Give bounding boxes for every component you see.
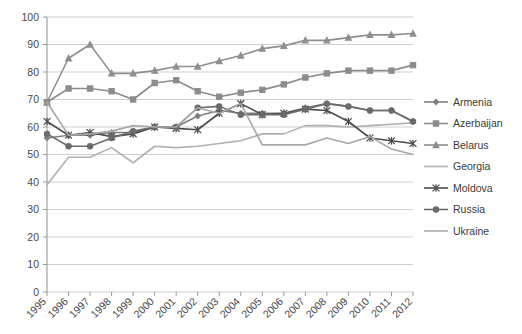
marker-triangle [324, 37, 330, 43]
marker-square [410, 63, 415, 68]
y-tick-label: 80 [27, 66, 39, 78]
marker-square [195, 89, 200, 94]
marker-triangle [216, 58, 222, 64]
marker-triangle [433, 142, 439, 148]
marker-circle [433, 207, 438, 212]
series-azerbaijan [44, 63, 415, 105]
x-tick-label: 2005 [239, 295, 264, 320]
legend-item-russia[interactable]: Russia [424, 203, 485, 215]
x-axis-ticks [47, 292, 413, 296]
legend-item-moldova[interactable]: Moldova [424, 182, 493, 194]
marker-triangle [87, 42, 93, 48]
marker-circle [260, 112, 265, 117]
legend-label: Belarus [453, 139, 489, 151]
x-tick-label: 2004 [217, 295, 242, 320]
marker-circle [131, 129, 136, 134]
marker-square [109, 89, 114, 94]
marker-triangle [195, 64, 201, 70]
marker-square [324, 71, 329, 76]
y-tick-label: 20 [27, 231, 39, 243]
marker-square [217, 94, 222, 99]
y-tick-label: 10 [27, 258, 39, 270]
legend-label: Azerbaijan [453, 117, 503, 129]
x-axis-tick-labels: 1995199619971998199920002001200220032004… [23, 295, 414, 320]
marker-triangle [238, 53, 244, 59]
marker-circle [44, 131, 49, 136]
marker-triangle [346, 35, 352, 41]
y-tick-label: 100 [21, 11, 39, 23]
legend-label: Moldova [453, 182, 493, 194]
y-tick-label: 30 [27, 203, 39, 215]
y-axis-ticks [43, 17, 47, 292]
marker-triangle [410, 31, 416, 37]
legend-label: Russia [453, 203, 485, 215]
data-series-layer [44, 31, 417, 185]
x-tick-label: 1995 [23, 295, 48, 320]
marker-square [66, 86, 71, 91]
marker-circle [389, 108, 394, 113]
x-tick-label: 2000 [131, 295, 156, 320]
series-line [47, 65, 413, 102]
marker-square [238, 90, 243, 95]
x-tick-label: 1996 [45, 295, 70, 320]
marker-triangle [173, 64, 179, 70]
legend-item-georgia[interactable]: Georgia [424, 160, 491, 172]
marker-triangle [259, 46, 265, 52]
series-line [47, 104, 413, 144]
x-tick-label: 2011 [368, 295, 393, 320]
y-axis-tick-labels: 0102030405060708090100 [21, 11, 39, 298]
marker-triangle [389, 32, 395, 38]
marker-square [303, 75, 308, 80]
marker-square [174, 78, 179, 83]
y-tick-label: 70 [27, 93, 39, 105]
marker-circle [410, 119, 415, 124]
series-belarus [44, 31, 416, 105]
chart-legend: ArmeniaAzerbaijanBelarusGeorgiaMoldovaRu… [424, 96, 503, 237]
x-tick-label: 2008 [303, 295, 328, 320]
marker-square [131, 97, 136, 102]
legend-item-armenia[interactable]: Armenia [424, 96, 492, 108]
x-tick-label: 2010 [346, 295, 371, 320]
legend-item-ukraine[interactable]: Ukraine [424, 225, 489, 237]
x-tick-label: 1998 [88, 295, 113, 320]
x-tick-label: 2001 [153, 295, 178, 320]
marker-diamond [433, 99, 438, 104]
x-tick-label: 2007 [282, 295, 307, 320]
marker-circle [87, 144, 92, 149]
y-tick-label: 90 [27, 38, 39, 50]
marker-square [152, 80, 157, 85]
y-tick-label: 40 [27, 176, 39, 188]
marker-circle [324, 101, 329, 106]
x-tick-label: 2012 [389, 295, 414, 320]
marker-triangle [152, 68, 158, 74]
marker-triangle [130, 70, 136, 76]
line-chart: 0102030405060708090100 19951996199719981… [0, 0, 522, 334]
legend-item-azerbaijan[interactable]: Azerbaijan [424, 117, 503, 129]
marker-circle [303, 107, 308, 112]
chart-canvas: 0102030405060708090100 19951996199719981… [0, 0, 522, 334]
marker-star [345, 118, 352, 126]
marker-circle [281, 112, 286, 117]
legend-item-belarus[interactable]: Belarus [424, 139, 489, 151]
x-tick-label: 1999 [110, 295, 135, 320]
marker-square [433, 121, 438, 126]
y-tick-label: 60 [27, 121, 39, 133]
marker-square [389, 68, 394, 73]
marker-triangle [281, 43, 287, 49]
marker-circle [109, 135, 114, 140]
x-tick-label: 2003 [196, 295, 221, 320]
x-tick-label: 2002 [174, 295, 199, 320]
x-tick-label: 1997 [66, 295, 91, 320]
y-tick-label: 50 [27, 148, 39, 160]
marker-circle [217, 104, 222, 109]
marker-triangle [367, 32, 373, 38]
marker-square [87, 86, 92, 91]
marker-circle [238, 112, 243, 117]
series-line [47, 34, 413, 103]
x-tick-label: 2006 [260, 295, 285, 320]
marker-square [281, 82, 286, 87]
marker-triangle [302, 37, 308, 43]
marker-circle [346, 104, 351, 109]
legend-label: Georgia [453, 160, 491, 172]
marker-square [367, 68, 372, 73]
